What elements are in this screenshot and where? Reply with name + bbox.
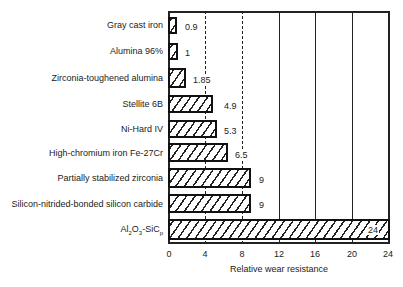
bar-gray-cast-iron — [168, 17, 177, 34]
x-tick: 12 — [274, 249, 284, 259]
x-tick: 8 — [239, 249, 244, 259]
category-label: Partially stabilized zirconia — [57, 173, 163, 183]
value-label: 6.5 — [234, 150, 249, 160]
category-label: Ni-Hard IV — [121, 124, 163, 134]
x-tick: 24 — [383, 249, 393, 259]
value-label: 5.3 — [223, 126, 238, 136]
category-label: Gray cast iron — [107, 20, 163, 30]
bar-ni-hard-iv — [168, 120, 217, 138]
value-label: 1.85 — [192, 75, 212, 85]
x-tick: 0 — [166, 249, 171, 259]
label-sub: p — [160, 230, 163, 236]
label-part: -SiC — [142, 224, 160, 234]
category-label: Alumina 96% — [110, 46, 163, 56]
bar-partially-stabilized-zirconia — [168, 168, 251, 188]
x-tick: 20 — [347, 249, 357, 259]
category-label: Silicon-nitrided-bonded silicon carbide — [11, 199, 163, 209]
bar-stellite-6b — [168, 95, 213, 113]
bar-zirconia-toughened-alumina — [168, 68, 186, 88]
x-axis-label: Relative wear resistance — [0, 264, 403, 274]
value-label: 0.9 — [184, 22, 199, 32]
bar-alumina-96 — [168, 43, 178, 60]
gridline-12 — [279, 11, 280, 244]
x-axis-line — [168, 242, 390, 244]
value-label: 4.9 — [223, 101, 238, 111]
value-label: 1 — [184, 48, 191, 58]
bar-al2o3-sicp — [168, 219, 390, 240]
category-label-al2o3-sicp: Al2O3-SiCp — [120, 224, 163, 236]
gridline-16 — [315, 11, 316, 244]
category-label: High-chromium iron Fe-27Cr — [49, 148, 163, 158]
bar-silicon-carbide — [168, 194, 251, 213]
value-label: 9 — [258, 175, 265, 185]
category-label: Zirconia-toughened alumina — [51, 73, 163, 83]
gridline-20 — [352, 11, 353, 244]
value-label: 24 — [367, 225, 379, 235]
x-tick: 4 — [202, 249, 207, 259]
category-label: Stellite 6B — [122, 99, 163, 109]
x-tick: 16 — [310, 249, 320, 259]
label-part: O — [132, 224, 139, 234]
bar-high-chromium-iron — [168, 143, 228, 162]
value-label: 9 — [258, 200, 265, 210]
